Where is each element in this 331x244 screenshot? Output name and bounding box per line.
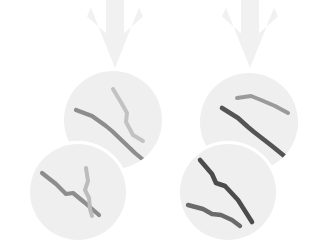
cell-lower-right: Lower right daughter cellChromosome AChr… xyxy=(177,141,279,243)
arrows-layer: Left division arrowRight division arrow xyxy=(87,0,278,68)
diagram-canvas: Cell division diagram with chromosomes L… xyxy=(0,0,331,244)
cell-division-diagram: Cell division diagram with chromosomes L… xyxy=(0,0,331,244)
cell-lower-left-body xyxy=(30,144,126,240)
cell-lower-left: Lower left daughter cellChromosome AChro… xyxy=(27,141,129,243)
right-division-arrow: Right division arrow xyxy=(222,0,278,68)
left-division-arrow: Left division arrow xyxy=(87,0,143,68)
cells-layer: Upper left daughter cellChromosome AChro… xyxy=(27,71,298,243)
